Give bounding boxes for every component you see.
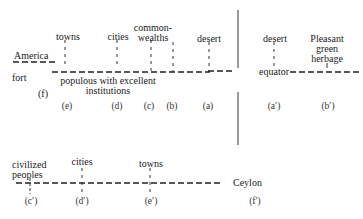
marker-d: (d)	[111, 101, 122, 111]
commonwealths-label-2: wealths	[138, 33, 169, 43]
cities2-label: cities	[71, 157, 92, 167]
cities-label: cities	[107, 32, 128, 42]
marker-a: (a)	[203, 101, 214, 111]
f-marker: (f)	[38, 89, 48, 99]
towns2-label: towns	[139, 159, 163, 169]
marker-c: (c)	[144, 101, 155, 111]
marker-e: (e)	[62, 101, 73, 111]
desert2-label: desert	[263, 34, 287, 44]
america-label: America	[14, 51, 48, 61]
fort-label: fort	[12, 73, 26, 83]
diagram-lines	[0, 0, 363, 219]
ceylon-label: Ceylon	[233, 178, 262, 188]
towns-label: towns	[56, 32, 80, 42]
marker-b: (b)	[166, 101, 177, 111]
desert-label: desert	[197, 34, 221, 44]
marker-a-prime: (a′)	[268, 101, 281, 111]
marker-d-prime: (d′)	[75, 196, 88, 206]
caption-line-2: institutions	[86, 86, 130, 96]
marker-f-prime: (f′)	[249, 196, 261, 206]
marker-c-prime: (c′)	[25, 196, 38, 206]
herbage-label-3: herbage	[311, 54, 343, 64]
marker-e-prime: (e′)	[145, 196, 158, 206]
civilized-label-2: peoples	[12, 170, 43, 180]
equator-label: equator	[258, 67, 290, 77]
marker-b-prime: (b′)	[321, 101, 334, 111]
